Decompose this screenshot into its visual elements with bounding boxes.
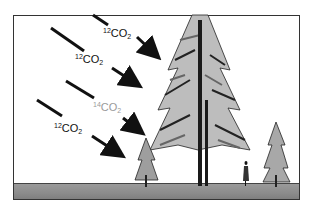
label-co2-12-second: 12CO2 (75, 53, 103, 66)
label-co2-12-top: 12CO2 (103, 27, 131, 40)
label-co2-14: 14CO2 (93, 101, 121, 114)
large-tree-icon (150, 15, 250, 186)
person-icon (243, 161, 249, 186)
scene-illustration (0, 0, 312, 213)
small-tree-right-icon (263, 122, 290, 187)
label-co2-12-bottom: 12CO2 (54, 122, 82, 135)
